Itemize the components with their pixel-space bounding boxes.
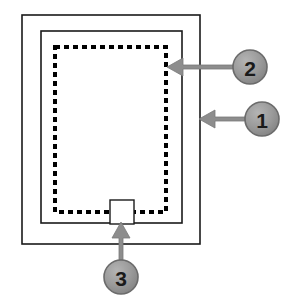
callout-1-label: 1 [256, 109, 268, 132]
diagram-canvas: 3 2 1 [0, 0, 283, 306]
frame-group [22, 15, 200, 244]
callout-3-label: 3 [115, 267, 127, 290]
latch-detail-rectangle [110, 200, 134, 224]
technical-diagram-svg: 3 2 1 [0, 0, 283, 306]
callout-1-group[interactable]: 1 [199, 102, 279, 136]
callout-2-label: 2 [244, 57, 256, 80]
callout-1-arrow-icon [199, 110, 245, 128]
inner-dashed-rectangle [55, 47, 166, 212]
